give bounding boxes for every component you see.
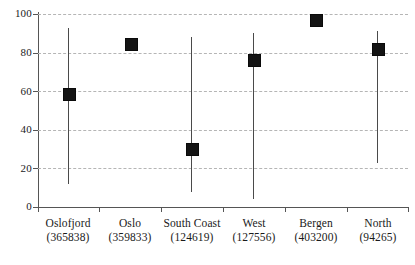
data-point-north (372, 43, 385, 56)
data-point-oslo (125, 38, 138, 51)
category-name-north: North (328, 216, 415, 230)
category-count-north: (94265) (328, 230, 415, 244)
x-tick-mark-3 (223, 207, 224, 212)
x-tick-mark-1 (99, 207, 100, 212)
plot-area (38, 14, 408, 207)
data-point-oslofjord (63, 88, 76, 101)
x-tick-mark-2 (161, 207, 162, 212)
x-tick-mark-5 (347, 207, 348, 212)
error-bar-south-coast (191, 37, 192, 191)
error-bar-oslofjord (68, 28, 69, 184)
y-tick-label-80: 80 (0, 47, 32, 58)
gridline-60 (38, 91, 408, 92)
y-tick-label-0: 0 (0, 201, 32, 212)
y-tick-label-100: 100 (0, 8, 32, 19)
chart-container: 100 80 60 40 20 0 (0, 0, 415, 265)
x-tick-mark-0 (38, 207, 39, 212)
data-point-south-coast (186, 143, 199, 156)
gridline-40 (38, 130, 408, 131)
y-tick-label-20: 20 (0, 163, 32, 174)
gridline-20 (38, 168, 408, 169)
gridline-100 (38, 14, 408, 15)
x-tick-mark-4 (285, 207, 286, 212)
data-point-bergen (310, 14, 323, 27)
x-tick-mark-6 (408, 207, 409, 212)
data-point-west (248, 54, 261, 67)
x-axis-line (33, 207, 409, 208)
x-axis-label-north: North (94265) (328, 216, 415, 244)
y-tick-label-40: 40 (0, 124, 32, 135)
y-tick-label-60: 60 (0, 86, 32, 97)
gridline-80 (38, 53, 408, 54)
